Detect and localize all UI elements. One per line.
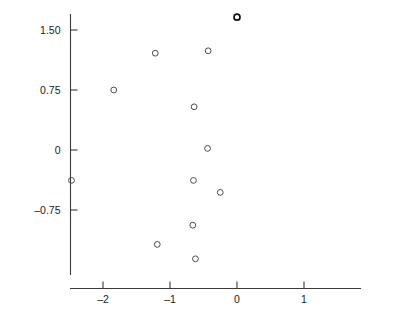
data-point bbox=[154, 242, 160, 248]
y-tick-label: 1.50 bbox=[40, 24, 61, 36]
data-point-highlighted bbox=[234, 14, 240, 20]
x-tick-label: 1 bbox=[301, 293, 307, 305]
data-point bbox=[191, 178, 197, 184]
axes-layer bbox=[70, 14, 361, 289]
tick-labels-layer: 1.500.750–0.75–2–101 bbox=[34, 24, 307, 305]
data-point bbox=[69, 178, 75, 184]
x-tick-label: 0 bbox=[234, 293, 240, 305]
data-points-layer bbox=[69, 14, 240, 261]
tick-marks-layer bbox=[71, 30, 305, 289]
scatter-chart: 1.500.750–0.75–2–101 bbox=[0, 0, 402, 331]
data-point bbox=[217, 190, 223, 196]
plot-area: 1.500.750–0.75–2–101 bbox=[0, 0, 402, 331]
y-tick-label: 0 bbox=[55, 144, 61, 156]
y-tick-label: 0.75 bbox=[40, 84, 61, 96]
data-point bbox=[191, 104, 197, 110]
data-point bbox=[193, 256, 199, 262]
data-point bbox=[205, 146, 211, 152]
data-point bbox=[205, 48, 211, 54]
data-point bbox=[190, 222, 196, 228]
data-point bbox=[152, 50, 158, 56]
y-tick-label: –0.75 bbox=[34, 204, 60, 216]
x-tick-label: –2 bbox=[97, 293, 109, 305]
x-tick-label: –1 bbox=[164, 293, 176, 305]
data-point bbox=[111, 87, 117, 93]
